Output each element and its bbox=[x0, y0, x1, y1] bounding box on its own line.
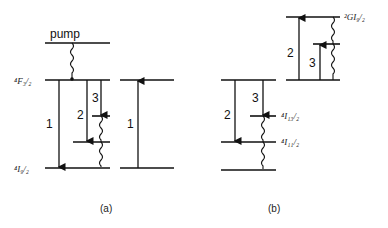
wavy-decay-upper bbox=[100, 116, 103, 142]
wavy-decay-bottom bbox=[262, 142, 265, 169]
energy-level-diagram: pump ⁴F₃/₂ ⁴I₉/₂ 1 2 3 1 (a) bbox=[0, 0, 388, 228]
label-transition-3: 3 bbox=[92, 91, 99, 105]
label-up-2: 2 bbox=[287, 46, 294, 60]
wavy-decay-pump bbox=[71, 43, 74, 79]
label-absorption-1: 1 bbox=[127, 117, 134, 131]
label-4I11-2: ⁴I₁₁/₂ bbox=[281, 137, 299, 147]
label-down-2: 2 bbox=[224, 108, 231, 122]
wavy-decay-top-lower bbox=[332, 44, 335, 80]
label-4F3-2: ⁴F₃/₂ bbox=[14, 76, 31, 86]
label-transition-1: 1 bbox=[46, 117, 53, 131]
label-4I9-2: ⁴I₉/₂ bbox=[14, 164, 29, 174]
caption-b: (b) bbox=[268, 203, 280, 214]
label-2GI9-2: ²GI₉/₂ bbox=[344, 12, 365, 22]
wavy-decay-top bbox=[332, 17, 335, 44]
caption-a: (a) bbox=[100, 203, 112, 214]
panel-b: ²GI₉/₂ 2 3 ⁴I₁₃/₂ ⁴I₁₁/₂ 2 3 (b) bbox=[221, 12, 365, 214]
label-transition-2: 2 bbox=[77, 108, 84, 122]
wavy-decay-lower bbox=[100, 142, 103, 167]
label-4I13-2: ⁴I₁₃/₂ bbox=[281, 111, 299, 121]
label-down-3: 3 bbox=[252, 91, 259, 105]
panel-a: pump ⁴F₃/₂ ⁴I₉/₂ 1 2 3 1 (a) bbox=[14, 27, 174, 214]
pump-label: pump bbox=[50, 27, 80, 41]
label-up-3: 3 bbox=[309, 56, 316, 70]
wavy-decay-mid bbox=[262, 116, 265, 142]
